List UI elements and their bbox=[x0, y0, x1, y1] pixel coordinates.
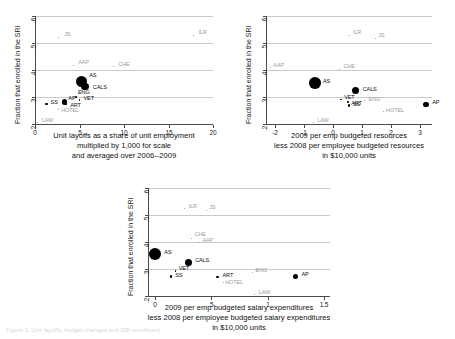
data-point-label-ilr: ILR bbox=[189, 203, 197, 209]
x-axis-title-line: 2009 per emp budgeted salary expenditure… bbox=[109, 303, 369, 313]
y-tick-label: .3 bbox=[143, 271, 150, 276]
data-point-label-vet: VET bbox=[179, 265, 189, 271]
data-point-label-as: AS bbox=[164, 249, 171, 255]
data-point-ss bbox=[170, 275, 172, 277]
y-axis-line bbox=[148, 188, 149, 297]
gridline-y bbox=[148, 242, 330, 243]
x-tick bbox=[155, 297, 156, 300]
data-point-label-ss: SS bbox=[175, 272, 182, 278]
data-point-label-cals: CALS bbox=[195, 257, 209, 263]
data-point-label-eng: ENG bbox=[256, 267, 268, 273]
data-point-ap bbox=[293, 274, 299, 280]
data-point-label-art: ART bbox=[223, 272, 234, 278]
data-point-label-hotel: HOTEL bbox=[225, 279, 243, 285]
y-tick-label: .4 bbox=[143, 244, 150, 249]
data-point-js bbox=[206, 210, 207, 211]
data-point-ilr bbox=[184, 208, 185, 209]
gridline-y bbox=[148, 188, 330, 189]
x-axis-line bbox=[148, 296, 330, 297]
x-tick bbox=[211, 297, 212, 300]
data-point-as bbox=[149, 248, 161, 260]
data-point-art bbox=[216, 276, 219, 279]
data-point-label-aap: AAP bbox=[202, 237, 213, 243]
x-tick bbox=[268, 297, 269, 300]
data-point-hotel bbox=[223, 282, 224, 283]
x-tick bbox=[324, 297, 325, 300]
data-point-eng bbox=[252, 272, 253, 273]
x-axis-title-line: less 2008 per employee budgeted salary e… bbox=[109, 313, 369, 323]
data-point-che bbox=[191, 238, 192, 239]
gridline-y bbox=[148, 215, 330, 216]
y-tick-label: .5 bbox=[143, 217, 150, 222]
data-point-label-law: LAW bbox=[259, 289, 270, 295]
data-point-label-ap: AP bbox=[302, 271, 309, 277]
panel-bottom: .2.3.4.5.60.511.5Fraction that enrolled … bbox=[0, 0, 455, 339]
data-point-aap bbox=[199, 242, 200, 243]
y-tick-label: .6 bbox=[143, 190, 150, 195]
data-point-label-js: JS bbox=[209, 204, 215, 210]
data-point-law bbox=[254, 294, 255, 295]
figure-caption: Figure 1. Unit layoffs, budget changes a… bbox=[6, 327, 160, 333]
y-axis-title: Fraction that enrolled in the SRI bbox=[127, 198, 134, 296]
